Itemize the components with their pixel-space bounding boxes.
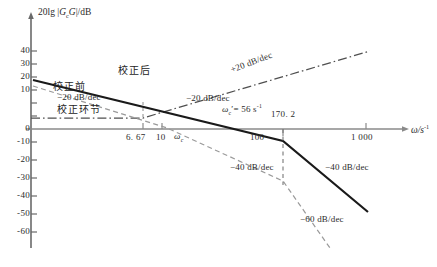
label-new-crossover-frequency: ωc′= 56 s-1 <box>222 104 262 117</box>
label-slope-minus60: −60 dB/dec <box>300 215 344 224</box>
x-tick-label-170-2: 170. 2 <box>271 110 295 119</box>
x-tick-label-10: 10 <box>156 133 166 142</box>
crossover-exponent: -1 <box>257 103 262 109</box>
x-axis-title-exponent: -1 <box>424 124 429 130</box>
bode-magnitude-figure: 20lg |GcG|/dB ω/s-1 40 30 20 10 0 -10 -2… <box>0 0 437 267</box>
x-tick-label-100: 100 <box>250 133 264 142</box>
y-tick-label-minus50: -50 <box>6 209 30 218</box>
label-slope-minus40-solid: −40 dB/dec <box>325 163 369 172</box>
y-tick-label-minus10: -10 <box>6 137 30 146</box>
y-tick-label-minus20: -20 <box>6 155 30 164</box>
label-slope-minus40-dashed: −40 dB/dec <box>230 163 274 172</box>
y-tick-label-minus30: -30 <box>6 173 30 182</box>
x-axis-arrow-icon <box>402 126 409 131</box>
y-tick-label-20: 20 <box>14 72 30 81</box>
y-tick-label-0: 0 <box>14 124 30 133</box>
label-before-correction: 校正前 <box>53 82 86 92</box>
y-axis-title: 20lg |GcG|/dB <box>38 8 91 19</box>
label-slope-minus20-left: −20 dB/dec <box>57 93 101 102</box>
y-tick-label-40: 40 <box>14 46 30 55</box>
y-tick-label-minus60: -60 <box>6 227 30 236</box>
x-tick-label-6-67: 6. 67 <box>126 133 146 142</box>
x-tick-label-omega-c: ωc <box>174 132 184 144</box>
y-axis-ticks <box>31 51 37 232</box>
label-after-correction: 校正后 <box>118 66 151 76</box>
label-correction-element: 校正环节 <box>57 105 101 115</box>
y-tick-label-minus40: -40 <box>6 191 30 200</box>
y-tick-label-10: 10 <box>14 85 30 94</box>
label-slope-minus20-mid: −20 dB/dec <box>186 94 230 103</box>
x-axis-title: ω/s-1 <box>411 124 429 136</box>
x-tick-label-1000: 1 000 <box>351 133 373 142</box>
y-tick-label-30: 30 <box>14 59 30 68</box>
g-symbol: G <box>69 7 76 17</box>
y-axis-arrow-icon <box>28 12 34 19</box>
